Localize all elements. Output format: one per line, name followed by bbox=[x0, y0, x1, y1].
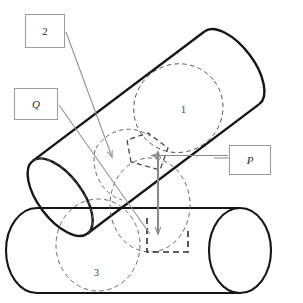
cylinder1-top-edge bbox=[33, 31, 205, 160]
callout-box-2[interactable]: 2 bbox=[25, 14, 65, 48]
diagonal-cylinder-1 bbox=[15, 18, 277, 247]
hidden-patch-upper bbox=[127, 133, 168, 170]
cylinder-3-number: 3 bbox=[94, 268, 99, 278]
cylinder3-right-cap bbox=[209, 208, 271, 293]
callout-label-p: P bbox=[247, 155, 254, 166]
callout-box-p[interactable]: P bbox=[229, 145, 271, 175]
leader-line-2 bbox=[66, 32, 112, 157]
callout-box-q[interactable]: Q bbox=[14, 88, 58, 120]
figure-canvas: 2 Q P 1 3 bbox=[0, 0, 303, 303]
cylinder-1-number: 1 bbox=[181, 105, 186, 115]
cylinder3-left-cap bbox=[6, 208, 37, 293]
hidden-circle-1 bbox=[116, 46, 241, 170]
hidden-circle-projection bbox=[110, 158, 190, 252]
cylinder-3-number-text: 3 bbox=[94, 267, 99, 278]
cylinder-1-number-text: 1 bbox=[181, 104, 186, 115]
cylinder1-far-cap bbox=[204, 18, 276, 104]
callout-label-q: Q bbox=[32, 99, 40, 110]
hidden-arc-upper-left bbox=[96, 129, 150, 148]
callout-label-2: 2 bbox=[42, 26, 48, 37]
